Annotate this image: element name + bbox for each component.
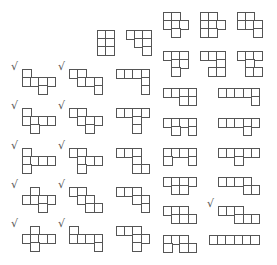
net-square (251, 148, 261, 158)
net-square (253, 67, 263, 77)
net-square (105, 46, 115, 56)
net-square (132, 124, 142, 134)
net-square (163, 156, 173, 166)
net-square (77, 164, 87, 174)
net-square (179, 59, 189, 69)
net-square (188, 96, 198, 106)
net-square (251, 214, 261, 224)
net-square (188, 177, 198, 187)
net-square (30, 242, 40, 252)
net-square (251, 96, 261, 106)
net-square (94, 85, 104, 95)
net-square (243, 126, 253, 136)
net-square (47, 77, 57, 87)
net-square (47, 195, 57, 205)
net-square (141, 234, 151, 244)
checkmark-icon: √ (11, 179, 18, 190)
net-square (141, 164, 151, 174)
net-square (250, 235, 260, 245)
checkmark-icon: √ (58, 100, 65, 111)
net-square (171, 126, 181, 136)
net-square (179, 185, 189, 195)
net-square (188, 243, 198, 253)
net-square (253, 51, 263, 61)
net-square (171, 28, 181, 38)
net-square (94, 242, 104, 252)
checkmark-icon: √ (58, 179, 65, 190)
net-square (94, 203, 104, 213)
checkmark-icon: √ (58, 218, 65, 229)
net-square (216, 67, 226, 77)
net-square (22, 164, 32, 174)
net-square (47, 156, 57, 166)
worksheet-canvas: √√√√√√√√√√√ (0, 0, 277, 265)
net-square (38, 203, 48, 213)
net-square (30, 124, 40, 134)
net-square (251, 185, 261, 195)
net-square (38, 85, 48, 95)
checkmark-icon: √ (11, 218, 18, 229)
net-square (188, 156, 198, 166)
checkmark-icon: √ (11, 61, 18, 72)
checkmark-icon: √ (58, 140, 65, 151)
net-square (251, 118, 261, 128)
net-square (142, 46, 152, 56)
net-square (47, 116, 57, 126)
net-square (216, 20, 226, 30)
net-square (94, 116, 104, 126)
net-square (253, 28, 263, 38)
net-square (163, 243, 173, 253)
checkmark-icon: √ (207, 198, 214, 209)
net-square (141, 108, 151, 118)
net-square (141, 85, 151, 95)
net-square (141, 203, 151, 213)
checkmark-icon: √ (11, 140, 18, 151)
net-square (208, 28, 218, 38)
net-square (47, 234, 57, 244)
checkmark-icon: √ (58, 61, 65, 72)
net-square (188, 214, 198, 224)
checkmark-icon: √ (11, 100, 18, 111)
net-square (179, 20, 189, 30)
net-square (171, 67, 181, 77)
net-square (85, 124, 95, 134)
net-square (188, 126, 198, 136)
net-square (94, 156, 104, 166)
net-square (132, 242, 142, 252)
net-square (234, 156, 244, 166)
